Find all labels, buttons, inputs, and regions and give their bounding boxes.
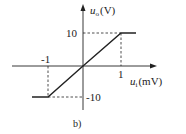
y-axis-arrow-icon [81,4,86,11]
y-tick-10: 10 [66,27,78,39]
transfer-characteristic-chart: uo(V) ui(mV) 10 -10 -1 1 b) [0,0,186,134]
x-tick-1: 1 [118,68,124,80]
figure-caption: b) [73,118,81,130]
x-axis-arrow-icon [150,64,157,69]
y-tick-minus-10: -10 [86,91,101,103]
x-tick-minus-1: -1 [41,53,50,65]
y-axis-title: uo(V) [90,4,116,18]
transfer-curve [32,33,136,97]
x-axis-title: ui(mV) [130,75,163,89]
